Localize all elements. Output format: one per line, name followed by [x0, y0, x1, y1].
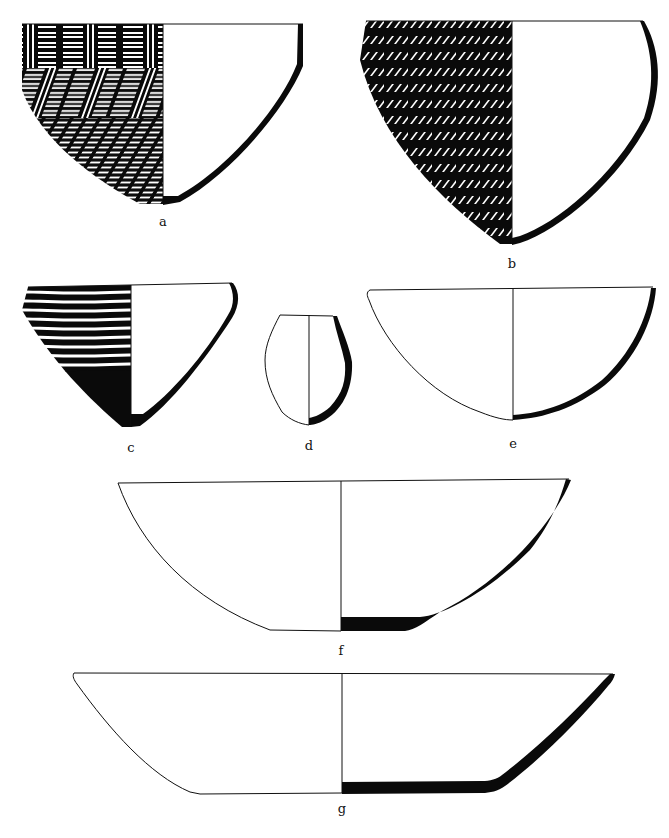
- vessel-e: e: [367, 287, 656, 451]
- vessel-d-section: [309, 316, 352, 425]
- vessel-f-label: f: [339, 643, 345, 658]
- vessel-c: c: [20, 283, 238, 455]
- vessel-c-label: c: [127, 440, 134, 455]
- vessel-g-section: [342, 674, 615, 794]
- vessel-g-exterior: [73, 673, 342, 794]
- vessel-b-label: b: [508, 256, 516, 271]
- vessel-d-rim-line: [280, 315, 333, 316]
- vessel-g-rim-line: [74, 673, 613, 674]
- vessel-b-decoration: [355, 20, 515, 248]
- vessel-b: b: [355, 20, 658, 271]
- vessel-g-label: g: [338, 801, 346, 816]
- vessel-a-decoration: [20, 24, 165, 208]
- vessel-e-exterior: [367, 290, 513, 420]
- vessel-a-section: [163, 24, 303, 205]
- vessel-d-exterior: [265, 315, 309, 425]
- vessel-e-section: [513, 288, 656, 420]
- vessel-f-section: [341, 479, 571, 631]
- vessel-f: f: [118, 479, 571, 658]
- vessel-e-rim-line: [370, 287, 653, 290]
- vessel-a: a: [20, 24, 303, 229]
- vessel-c-decoration: [20, 284, 133, 430]
- vessel-a-label: a: [159, 214, 167, 229]
- vessel-d-label: d: [305, 438, 313, 453]
- vessel-c-section: [131, 283, 238, 427]
- pottery-plate: a b c d e: [0, 0, 669, 838]
- vessel-e-label: e: [509, 436, 517, 451]
- vessel-f-exterior: [118, 483, 341, 631]
- vessel-d: d: [265, 315, 352, 453]
- vessel-g: g: [73, 673, 615, 816]
- vessel-b-section: [512, 21, 658, 245]
- vessel-f-rim-line: [118, 479, 569, 483]
